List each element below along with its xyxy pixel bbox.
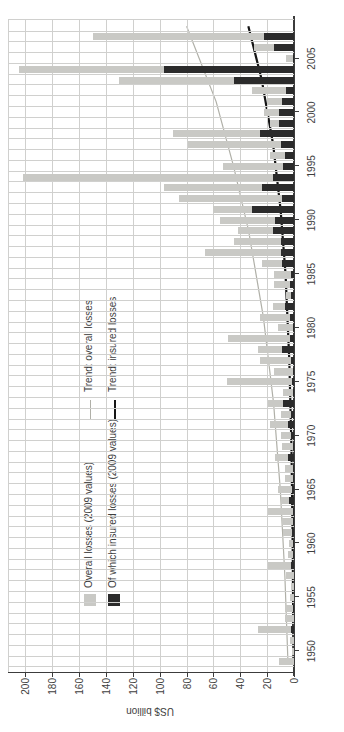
value-gridline — [133, 20, 134, 672]
year-gridline — [8, 214, 294, 215]
bar-insured-1966 — [292, 486, 294, 493]
bar-overall-1951 — [292, 648, 294, 655]
bar-insured-2006 — [293, 55, 294, 62]
year-tick — [294, 435, 299, 436]
year-tick-label: 1985 — [306, 252, 318, 296]
bar-insured-1961 — [293, 540, 294, 547]
bar-overall-1998 — [188, 141, 294, 148]
bar-insured-1990 — [273, 227, 294, 234]
year-gridline — [8, 300, 294, 301]
year-gridline — [8, 397, 294, 398]
bar-overall-1958 — [286, 572, 294, 579]
bar-insured-1975 — [293, 389, 294, 396]
bar-insured-2002 — [282, 98, 294, 105]
year-gridline — [8, 225, 294, 226]
year-gridline — [8, 63, 294, 64]
bar-insured-1969 — [288, 454, 294, 461]
year-gridline — [8, 160, 294, 161]
year-gridline — [8, 203, 294, 204]
category-axis-line — [8, 672, 295, 673]
bar-insured-1987 — [282, 260, 294, 267]
bar-insured-1967 — [293, 475, 294, 482]
year-gridline — [8, 462, 294, 463]
bar-insured-1977 — [293, 368, 294, 375]
value-gridline — [52, 20, 53, 672]
year-gridline — [8, 138, 294, 139]
bar-insured-1997 — [285, 152, 294, 159]
year-gridline — [8, 537, 294, 538]
bar-insured-1981 — [293, 324, 294, 331]
year-tick-label: 1955 — [306, 575, 318, 619]
year-gridline — [8, 656, 294, 657]
value-tick-label: 0 — [289, 678, 301, 712]
legend-label-insured-losses: Of which insured losses (2009 values) — [107, 419, 118, 588]
bar-insured-1992 — [252, 206, 294, 213]
bar-insured-2001 — [279, 109, 294, 116]
year-gridline — [8, 365, 294, 366]
bar-insured-1962 — [292, 529, 294, 536]
bar-overall-1993 — [179, 195, 294, 202]
year-gridline — [8, 278, 294, 279]
year-gridline — [8, 95, 294, 96]
year-tick — [294, 650, 299, 651]
year-gridline — [8, 343, 294, 344]
year-gridline — [8, 472, 294, 473]
bar-insured-1996 — [283, 163, 294, 170]
bar-insured-1974 — [283, 400, 294, 407]
value-tick-label: 60 — [208, 678, 220, 712]
bar-insured-1993 — [282, 195, 294, 202]
value-tick — [160, 672, 161, 677]
legend-swatch-insured-losses — [108, 594, 120, 606]
year-gridline — [8, 322, 294, 323]
bar-insured-1965 — [289, 497, 294, 504]
value-gridline — [106, 20, 107, 672]
year-tick-label: 1990 — [306, 198, 318, 242]
bar-insured-2000 — [279, 120, 294, 127]
year-gridline — [8, 634, 294, 635]
bar-insured-1983 — [285, 303, 294, 310]
year-gridline — [8, 386, 294, 387]
rotated-chart-stage: US$ billion Overall losses (2009 values)… — [0, 0, 344, 732]
bar-overall-1978 — [260, 357, 294, 364]
year-gridline — [8, 74, 294, 75]
bar-insured-1986 — [291, 271, 294, 278]
year-tick — [294, 111, 299, 112]
bar-insured-1978 — [291, 357, 294, 364]
value-gridline — [79, 20, 80, 672]
year-gridline — [8, 375, 294, 376]
legend-swatch-overall-losses — [84, 594, 96, 606]
year-gridline — [8, 52, 294, 53]
bar-overall-1976 — [227, 378, 294, 385]
year-tick-label: 1970 — [306, 414, 318, 458]
bar-overall-1980 — [228, 335, 294, 342]
bar-insured-1964 — [293, 508, 294, 515]
year-gridline — [8, 516, 294, 517]
value-tick-label: 200 — [20, 678, 32, 712]
year-gridline — [8, 106, 294, 107]
year-gridline — [8, 84, 294, 85]
bar-overall-1982 — [260, 314, 294, 321]
value-tick — [187, 672, 188, 677]
bar-insured-1998 — [281, 141, 294, 148]
value-tick-label: 20 — [262, 678, 274, 712]
value-tick — [294, 672, 295, 677]
bar-insured-1988 — [281, 249, 294, 256]
value-tick — [106, 672, 107, 677]
year-tick — [294, 165, 299, 166]
bar-insured-1955 — [293, 605, 294, 612]
value-tick-label: 120 — [128, 678, 140, 712]
bar-insured-1980 — [290, 335, 294, 342]
value-tick — [240, 672, 241, 677]
year-tick — [294, 542, 299, 543]
year-tick-label: 2000 — [306, 90, 318, 134]
bar-insured-1976 — [292, 378, 294, 385]
year-gridline — [8, 580, 294, 581]
year-gridline — [8, 246, 294, 247]
year-gridline — [8, 559, 294, 560]
value-tick-label: 80 — [182, 678, 194, 712]
year-gridline — [8, 526, 294, 527]
value-tick-label: 100 — [155, 678, 167, 712]
plot-top-border — [8, 20, 9, 672]
bar-insured-1989 — [281, 238, 294, 245]
year-gridline — [8, 494, 294, 495]
